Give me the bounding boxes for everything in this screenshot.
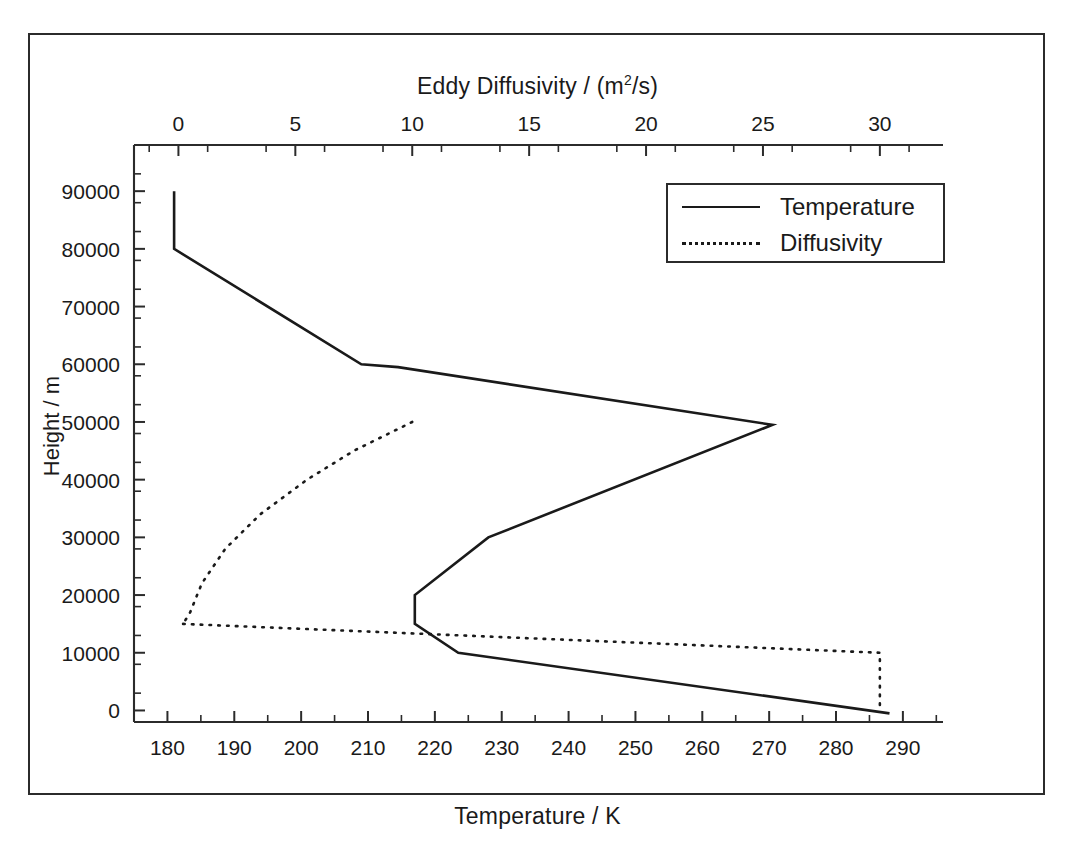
legend-label-temperature: Temperature: [780, 193, 915, 221]
x-tick-label-bottom: 230: [484, 736, 519, 759]
x-tick-label-bottom: 240: [551, 736, 586, 759]
x-tick-label-top: 0: [173, 112, 185, 135]
legend-item-diffusivity: Diffusivity: [668, 223, 947, 263]
legend: Temperature Diffusivity: [666, 183, 945, 263]
x-tick-label-bottom: 290: [885, 736, 920, 759]
y-tick-label: 80000: [62, 238, 120, 261]
x-tick-label-top: 5: [289, 112, 301, 135]
x-tick-label-bottom: 200: [284, 736, 319, 759]
x-tick-label-top: 30: [868, 112, 891, 135]
x-tick-label-bottom: 210: [350, 736, 385, 759]
x-tick-label-top: 10: [401, 112, 424, 135]
x-tick-label-top: 20: [634, 112, 657, 135]
legend-label-diffusivity: Diffusivity: [780, 229, 882, 257]
dotted-line-icon: [682, 242, 760, 245]
x-tick-label-bottom: 270: [752, 736, 787, 759]
y-tick-label: 60000: [62, 353, 120, 376]
x-tick-label-top: 25: [751, 112, 774, 135]
series-group: [174, 191, 889, 713]
x-tick-label-bottom: 280: [819, 736, 854, 759]
y-tick-label: 10000: [62, 642, 120, 665]
x-tick-label-top: 15: [517, 112, 540, 135]
x-tick-label-bottom: 180: [150, 736, 185, 759]
x-tick-label-bottom: 260: [685, 736, 720, 759]
y-tick-label: 20000: [62, 584, 120, 607]
solid-line-icon: [682, 206, 760, 208]
plot-canvas: 0100002000030000400005000060000700008000…: [0, 0, 1075, 863]
x-tick-label-bottom: 190: [217, 736, 252, 759]
figure-root: Eddy Diffusivity / (m2/s) Height / m Tem…: [0, 0, 1075, 863]
legend-item-temperature: Temperature: [668, 187, 947, 227]
y-tick-label: 30000: [62, 526, 120, 549]
series-line-diffusivity-upper: [183, 422, 412, 624]
y-tick-label: 40000: [62, 469, 120, 492]
y-tick-label: 90000: [62, 180, 120, 203]
y-tick-label: 0: [108, 699, 120, 722]
x-tick-label-bottom: 250: [618, 736, 653, 759]
y-tick-label: 50000: [62, 411, 120, 434]
series-line-temperature: [174, 191, 889, 713]
x-tick-label-bottom: 220: [417, 736, 452, 759]
y-tick-label: 70000: [62, 296, 120, 319]
